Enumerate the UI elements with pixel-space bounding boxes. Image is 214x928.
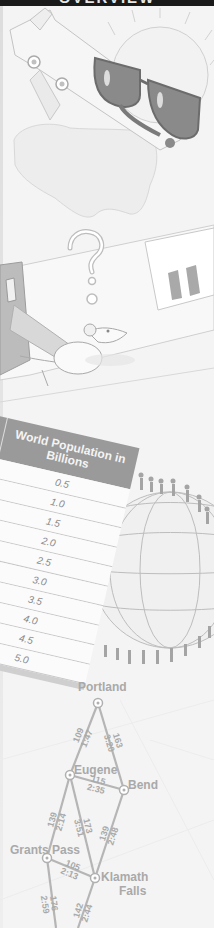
- city-label-portland: Portland: [78, 680, 127, 694]
- city-label-falls: Falls: [119, 884, 146, 898]
- route-label-grants-pass-south: 176 2:59: [39, 894, 59, 914]
- route-time: 2:59: [39, 895, 50, 914]
- room-illustration: [0, 225, 214, 402]
- city-marker-klamath-falls: [91, 874, 100, 883]
- city-label-grants-pass: Grants Pass: [10, 843, 80, 857]
- us-map-illustration: [14, 124, 157, 217]
- city-label-bend: Bend: [128, 778, 158, 792]
- city-label-klamath: Klamath: [101, 870, 148, 884]
- city-marker-portland: [94, 699, 103, 708]
